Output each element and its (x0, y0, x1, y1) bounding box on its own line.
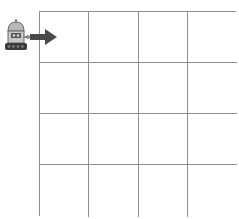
grid-cell-r1-c3[interactable] (139, 12, 188, 63)
arrow-right-icon (30, 29, 58, 45)
grid-cell-r4-c1[interactable] (40, 165, 89, 217)
grid-cell-r3-c4[interactable] (188, 114, 237, 165)
robot-icon (3, 19, 30, 51)
game-board-grid (39, 11, 236, 216)
grid-cell-r1-c4[interactable] (188, 12, 237, 63)
grid-cell-r2-c1[interactable] (40, 63, 89, 114)
grid-cell-r4-c4[interactable] (188, 165, 237, 217)
grid-cell-r3-c1[interactable] (40, 114, 89, 165)
grid-cell-r2-c4[interactable] (188, 63, 237, 114)
grid-cell-r1-c2[interactable] (89, 12, 139, 63)
grid-cell-r2-c3[interactable] (139, 63, 188, 114)
grid-cell-r2-c2[interactable] (89, 63, 139, 114)
grid-cell-r4-c3[interactable] (139, 165, 188, 217)
grid-cell-r3-c2[interactable] (89, 114, 139, 165)
grid-cell-r4-c2[interactable] (89, 165, 139, 217)
grid-cell-r3-c3[interactable] (139, 114, 188, 165)
game-stage (0, 0, 239, 219)
